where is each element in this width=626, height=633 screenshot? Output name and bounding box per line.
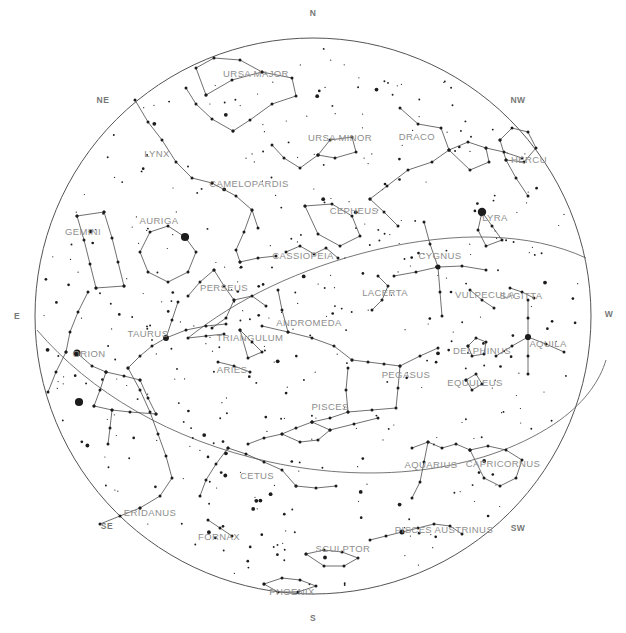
star-point [386, 381, 388, 383]
constellation-star [397, 225, 400, 228]
constellation-label[interactable]: ARIES [217, 364, 248, 375]
constellation-label[interactable]: URSA MAJOR [223, 68, 289, 79]
star-point [399, 243, 400, 244]
star-point [257, 93, 258, 94]
constellation-label[interactable]: PHOENIX [269, 586, 315, 597]
constellation-star [175, 161, 178, 164]
star-point [224, 267, 225, 268]
star-point [199, 450, 200, 451]
constellation-star [383, 363, 386, 366]
constellation-star [503, 151, 506, 154]
star-point [470, 136, 472, 138]
constellation-label[interactable]: CAMELOPARDIS [209, 178, 289, 189]
star-point [240, 105, 241, 106]
constellation-star [95, 287, 98, 290]
star-point [215, 262, 216, 263]
constellation-star [232, 130, 235, 133]
constellation-label[interactable]: GEMINI [65, 226, 101, 237]
constellation-star [505, 159, 508, 162]
star-point [410, 265, 411, 266]
star-point [126, 385, 127, 386]
constellation-label[interactable]: PISCES AUSTRINUS [395, 524, 493, 535]
constellation-label[interactable]: EQUULEUS [447, 377, 502, 388]
star-point [192, 437, 194, 439]
constellation-label[interactable]: SAGITTA [500, 290, 543, 301]
bright-star-deneb[interactable]: Deneb [435, 264, 440, 269]
constellation-star [311, 421, 314, 424]
constellation-star [127, 367, 130, 370]
constellation-label[interactable]: TRIANGULUM [217, 332, 284, 343]
constellation-label[interactable]: FORNAX [198, 531, 240, 542]
constellation-star [263, 583, 266, 586]
star-point [149, 325, 151, 327]
star-point [315, 418, 316, 419]
constellation-label[interactable]: LYRA [482, 212, 508, 223]
constellation-star [103, 211, 106, 214]
constellation-star [117, 261, 120, 264]
constellation-label[interactable]: AURIGA [140, 215, 179, 226]
constellation-label[interactable]: CYGNUS [418, 250, 461, 261]
cardinal-label-nw: NW [510, 95, 526, 105]
constellation-label[interactable]: CETUS [240, 470, 274, 481]
constellation-label[interactable]: PERSEUS [200, 282, 248, 293]
constellation-label[interactable]: CEPHEUS [330, 205, 379, 216]
star-point [330, 198, 331, 199]
constellation-label[interactable]: PISCES [311, 401, 348, 412]
constellation-label[interactable]: LACERTA [362, 287, 408, 298]
constellation-star [483, 477, 486, 480]
star-point [398, 271, 399, 272]
star-point [565, 375, 567, 377]
constellation-label[interactable]: SCULPTOR [316, 543, 371, 554]
bright-star-rigel[interactable]: Rigel [75, 398, 83, 406]
bright-star-capella[interactable]: Capella [181, 233, 189, 241]
constellation-star [215, 463, 218, 466]
constellation-label[interactable]: DELPHINUS [453, 345, 511, 356]
constellation-label[interactable]: AQUILA [529, 338, 567, 349]
constellation-star [429, 243, 432, 246]
constellation-label[interactable]: CASSIOPEIA [272, 250, 334, 261]
constellation-star [187, 337, 190, 340]
constellation-star [107, 443, 110, 446]
constellation-label[interactable]: CAPRICORNUS [466, 458, 541, 469]
constellation-star [76, 215, 79, 218]
constellation-label[interactable]: URSA MINOR [308, 132, 372, 143]
star-point [303, 379, 305, 381]
star-point [218, 346, 220, 348]
star-point [364, 223, 365, 224]
sky-map-svg[interactable]: VegaCapellaAldebaranRigelBetelgeuseAltai… [0, 0, 626, 633]
constellation-star [515, 177, 518, 180]
constellation-line [282, 422, 330, 442]
constellation-label[interactable]: TAURUS [128, 328, 169, 339]
constellation-label[interactable]: AQUARIUS [405, 459, 458, 470]
star-point [257, 285, 260, 288]
constellation-star [527, 131, 530, 134]
constellation-star [177, 301, 180, 304]
constellation-label[interactable]: LYNX [144, 148, 170, 159]
constellation-label[interactable]: ERIDANUS [124, 507, 176, 518]
constellation-star [171, 477, 174, 480]
star-point [453, 332, 454, 333]
star-point [384, 233, 386, 235]
constellation-star [417, 123, 420, 126]
constellation-label[interactable]: PEGASUS [382, 369, 431, 380]
star-point [156, 353, 157, 354]
constellation-star [213, 57, 216, 60]
constellation-line [104, 212, 124, 286]
star-point [434, 535, 437, 538]
constellation-label[interactable]: DRACO [399, 131, 435, 142]
star-point [63, 383, 64, 384]
star-point [255, 382, 257, 384]
constellation-label[interactable]: ORION [72, 348, 105, 359]
star-point [487, 515, 490, 518]
constellation-star [231, 79, 234, 82]
star-point [318, 90, 321, 93]
constellation-star [371, 409, 374, 412]
constellation-star [147, 397, 150, 400]
star-point [481, 436, 483, 438]
constellation-star [485, 147, 488, 150]
star-point [74, 374, 77, 377]
star-point [105, 485, 107, 487]
constellation-label[interactable]: HERCU [511, 154, 547, 165]
constellation-star [87, 291, 90, 294]
constellation-label[interactable]: ANDROMEDA [276, 317, 342, 328]
